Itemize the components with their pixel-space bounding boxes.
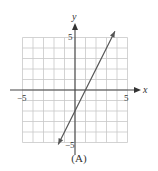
figure-caption: (A) [0, 152, 158, 164]
y-min-tick-label: −5 [65, 140, 75, 150]
coordinate-plane: x y −5 5 5 −5 [0, 0, 158, 171]
x-max-tick-label: 5 [124, 93, 129, 103]
y-axis-label: y [71, 11, 77, 22]
y-axis-arrow-icon [72, 23, 78, 30]
x-min-tick-label: −5 [17, 93, 27, 103]
x-axis-label: x [142, 84, 148, 95]
y-max-tick-label: 5 [68, 32, 73, 42]
x-axis-arrow-icon [134, 87, 141, 93]
